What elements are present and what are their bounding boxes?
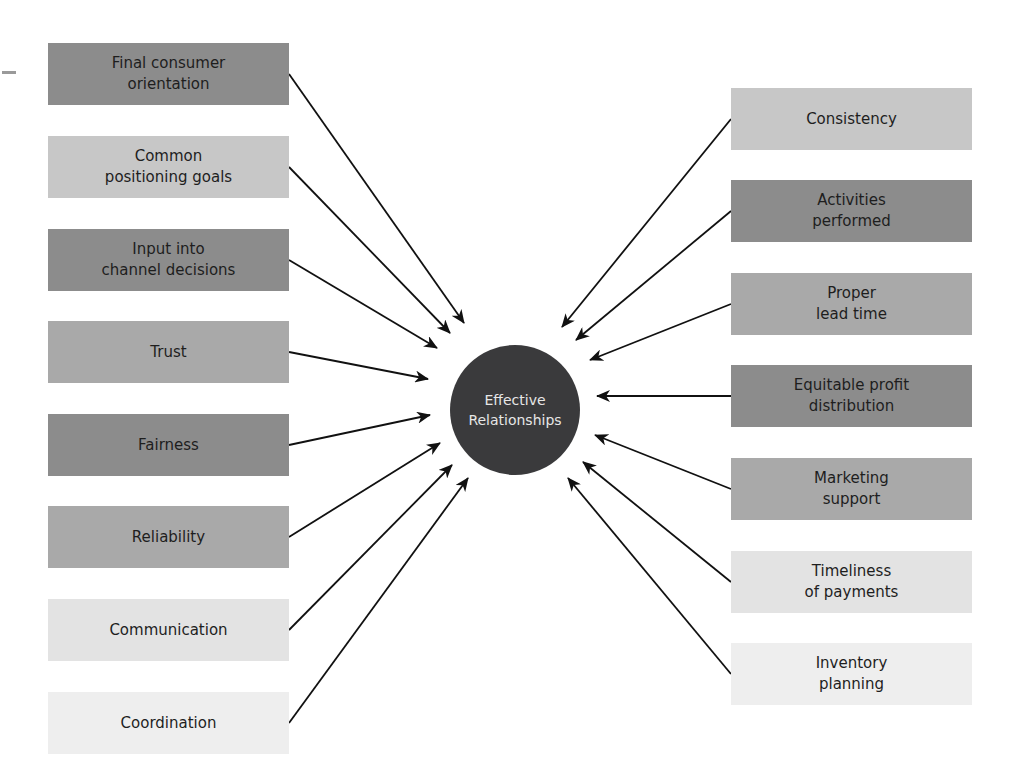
- factor-label: Timeliness of payments: [805, 561, 899, 603]
- arrow-fairness: [289, 415, 430, 445]
- factor-label: Fairness: [138, 435, 199, 456]
- factor-fairness: Fairness: [48, 414, 289, 476]
- factor-coordination: Coordination: [48, 692, 289, 754]
- arrow-trust: [289, 352, 428, 379]
- factor-final-consumer-orientation: Final consumer orientation: [48, 43, 289, 105]
- factor-inventory-planning: Inventory planning: [731, 643, 972, 705]
- factor-label: Communication: [109, 620, 227, 641]
- arrow-proper-lead: [590, 304, 731, 360]
- factor-activities-performed: Activities performed: [731, 180, 972, 242]
- factor-label: Trust: [150, 342, 186, 363]
- factor-label: Reliability: [132, 527, 205, 548]
- factor-label: Activities performed: [812, 190, 891, 232]
- center-node-effective-relationships: Effective Relationships: [450, 345, 580, 475]
- factor-marketing-support: Marketing support: [731, 458, 972, 520]
- factor-proper-lead-time: Proper lead time: [731, 273, 972, 335]
- factor-input-into-channel-decisions: Input into channel decisions: [48, 229, 289, 291]
- factor-common-positioning-goals: Common positioning goals: [48, 136, 289, 198]
- center-label: Effective Relationships: [468, 390, 561, 430]
- factor-label: Marketing support: [814, 468, 889, 510]
- factor-label: Equitable profit distribution: [794, 375, 909, 417]
- arrow-consistency: [562, 119, 731, 327]
- arrow-marketing: [595, 435, 731, 489]
- factor-trust: Trust: [48, 321, 289, 383]
- arrow-inventory: [568, 478, 731, 674]
- factor-label: Inventory planning: [816, 653, 888, 695]
- arrow-activities: [576, 211, 731, 340]
- factor-label: Input into channel decisions: [102, 239, 236, 281]
- factor-communication: Communication: [48, 599, 289, 661]
- arrow-final-consumer: [289, 74, 464, 323]
- factor-label: Consistency: [806, 109, 897, 130]
- factor-consistency: Consistency: [731, 88, 972, 150]
- factor-reliability: Reliability: [48, 506, 289, 568]
- arrow-coordination: [289, 478, 468, 723]
- factor-label: Proper lead time: [816, 283, 887, 325]
- arrow-communication: [289, 465, 452, 630]
- factor-equitable-profit-distribution: Equitable profit distribution: [731, 365, 972, 427]
- factor-label: Common positioning goals: [105, 146, 232, 188]
- factor-label: Coordination: [121, 713, 217, 734]
- arrow-input-channel: [289, 260, 437, 348]
- arrow-reliability: [289, 443, 440, 537]
- factor-timeliness-of-payments: Timeliness of payments: [731, 551, 972, 613]
- factor-label: Final consumer orientation: [112, 53, 226, 95]
